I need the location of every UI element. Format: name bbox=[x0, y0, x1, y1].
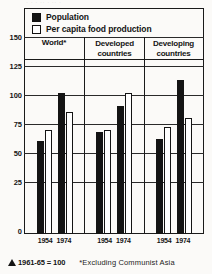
footnote-index-base: 1961-65 = 100 bbox=[8, 258, 65, 267]
ytick-label-50: 50 bbox=[0, 150, 22, 158]
bar-group-developed bbox=[84, 60, 144, 234]
hollow-square-icon bbox=[32, 25, 41, 34]
triangle-icon bbox=[8, 259, 16, 266]
x-labels-developing: 1954 1974 bbox=[144, 236, 203, 246]
legend-item-food-production: Per capita food production bbox=[32, 24, 152, 35]
bar-population-developed-1974 bbox=[117, 106, 124, 234]
group-header-band: World* Developed countries Developing co… bbox=[24, 37, 204, 60]
x-axis-labels: 1954 1974 1954 1974 1954 1974 bbox=[25, 236, 203, 246]
group-header-world-label: World* bbox=[42, 38, 66, 48]
bar-population-developing-1974 bbox=[177, 80, 184, 234]
x-label-developed-1954: 1954 bbox=[97, 236, 112, 246]
legend-label-population: Population bbox=[46, 13, 89, 22]
bar-population-world-1954 bbox=[37, 141, 44, 234]
bar-food-developing-1974 bbox=[185, 118, 192, 234]
bar-population-developing-1954 bbox=[156, 139, 163, 234]
x-labels-world: 1954 1974 bbox=[25, 236, 84, 246]
filled-square-icon bbox=[32, 13, 41, 22]
bar-pair-developed-1974 bbox=[117, 60, 132, 234]
ytick-label-0: 0 bbox=[0, 228, 22, 236]
legend-label-food-production: Per capita food production bbox=[46, 25, 152, 34]
group-header-developing-line1: Developing bbox=[153, 39, 194, 49]
group-header-developed-line2: countries bbox=[97, 49, 131, 59]
chart-page: · · · ·· · ·· · Population Per capita fo… bbox=[0, 0, 212, 274]
x-labels-developed: 1954 1974 bbox=[84, 236, 144, 246]
x-label-developing-1974: 1974 bbox=[176, 236, 191, 246]
group-header-developing-line2: countries bbox=[156, 49, 190, 59]
bar-pair-developing-1954 bbox=[156, 60, 171, 234]
bar-pair-world-1974 bbox=[58, 60, 73, 234]
bar-food-world-1974 bbox=[66, 112, 73, 234]
bar-population-developed-1954 bbox=[96, 132, 103, 234]
chart-footnotes: 1961-65 = 100 *Excluding Communist Asia bbox=[8, 256, 208, 268]
footnote-index-text: 1961-65 = 100 bbox=[18, 258, 65, 267]
bar-population-world-1974 bbox=[58, 93, 65, 235]
chart-legend: Population Per capita food production bbox=[24, 8, 204, 37]
bar-pair-developing-1974 bbox=[177, 60, 192, 234]
x-label-world-1954: 1954 bbox=[38, 236, 53, 246]
group-header-world: World* bbox=[24, 37, 84, 59]
bar-food-developed-1954 bbox=[104, 130, 111, 234]
bar-pair-developed-1954 bbox=[96, 60, 111, 234]
footnote-asterisk: *Excluding Communist Asia bbox=[79, 258, 174, 267]
bar-group-developing bbox=[144, 60, 203, 234]
x-label-developed-1974: 1974 bbox=[116, 236, 131, 246]
bar-groups bbox=[25, 60, 203, 234]
ytick-label-25: 25 bbox=[0, 179, 22, 187]
group-header-developed-line1: Developed bbox=[95, 39, 134, 49]
bar-food-developed-1974 bbox=[125, 93, 132, 235]
x-label-world-1974: 1974 bbox=[57, 236, 72, 246]
bar-food-world-1954 bbox=[45, 130, 52, 234]
bar-pair-world-1954 bbox=[37, 60, 52, 234]
caption-remnant: · · · ·· · ·· · bbox=[26, 0, 176, 5]
bar-group-world bbox=[25, 60, 84, 234]
bar-food-developing-1954 bbox=[164, 127, 171, 234]
plot-area bbox=[25, 60, 203, 234]
ytick-label-75: 75 bbox=[0, 121, 22, 129]
ytick-label-100: 100 bbox=[0, 92, 22, 100]
ytick-label-125: 125 bbox=[0, 63, 22, 71]
x-label-developing-1954: 1954 bbox=[157, 236, 172, 246]
legend-item-population: Population bbox=[32, 12, 89, 23]
group-header-developing: Developing countries bbox=[144, 37, 202, 59]
ytick-label-150: 150 bbox=[0, 34, 22, 42]
group-header-developed: Developed countries bbox=[84, 37, 144, 59]
